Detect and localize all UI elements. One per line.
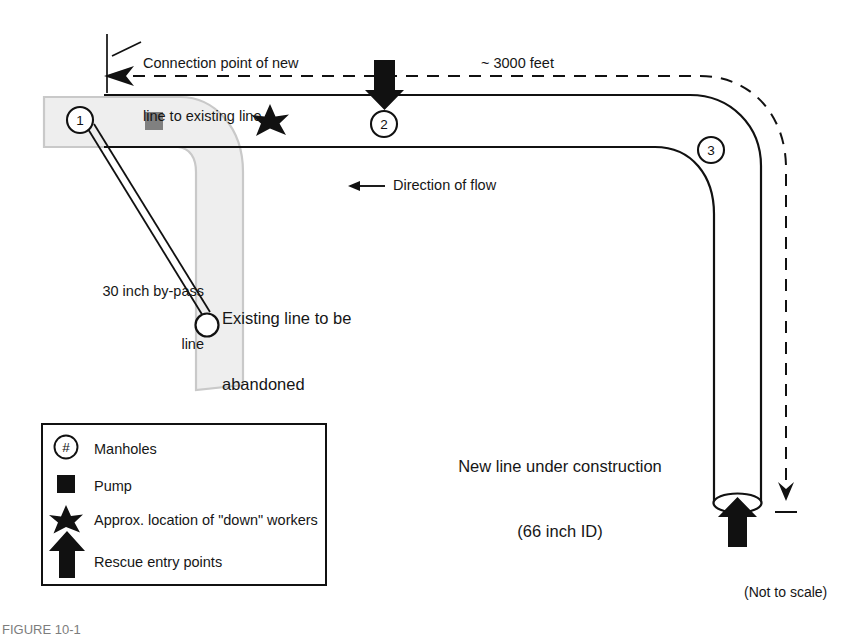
- legend-label-rescue-entry: Rescue entry points: [94, 554, 222, 570]
- figure-page: Connection point of new line to existing…: [0, 0, 867, 637]
- figure-caption: FIGURE 10-1: [2, 622, 81, 637]
- connection-point-label-line1: Connection point of new: [143, 55, 299, 73]
- distance-label: ~ 3000 feet: [481, 55, 554, 73]
- manhole-label-2: 2: [371, 117, 397, 132]
- legend-label-manholes: Manholes: [94, 441, 157, 457]
- manhole-label-1: 1: [67, 113, 93, 128]
- dashed-line-left-arrowhead: [104, 66, 134, 86]
- bypass-line-label-line2: line: [44, 336, 204, 354]
- new-line-label: New line under construction (66 inch ID): [441, 412, 679, 586]
- bypass-line-label: 30 inch by-pass line: [44, 248, 204, 390]
- new-line-label-line2: (66 inch ID): [441, 521, 679, 543]
- existing-line-label-line1: Existing line to be: [222, 307, 351, 329]
- connection-point-leader: [107, 34, 141, 93]
- legend-pump-icon: [57, 475, 75, 493]
- rescue-entry-arrow-top: [365, 60, 404, 110]
- legend-manhole-glyph: #: [53, 440, 79, 455]
- direction-of-flow-label: Direction of flow: [393, 177, 496, 195]
- connection-point-label: Connection point of new line to existing…: [143, 20, 299, 162]
- new-line-label-line1: New line under construction: [441, 456, 679, 478]
- dashed-line-bottom-arrowhead: [775, 482, 797, 512]
- manhole-label-3: 3: [698, 143, 724, 158]
- existing-line-label: Existing line to be abandoned: [222, 262, 351, 440]
- not-to-scale-label: (Not to scale): [744, 584, 827, 601]
- legend-label-down-workers: Approx. location of "down" workers: [94, 512, 318, 528]
- bypass-line-label-line1: 30 inch by-pass: [44, 283, 204, 301]
- connection-point-label-line2: line to existing line: [143, 108, 299, 126]
- direction-of-flow-arrow: [348, 181, 385, 191]
- legend-label-pump: Pump: [94, 478, 132, 494]
- existing-line-label-line2: abandoned: [222, 373, 351, 395]
